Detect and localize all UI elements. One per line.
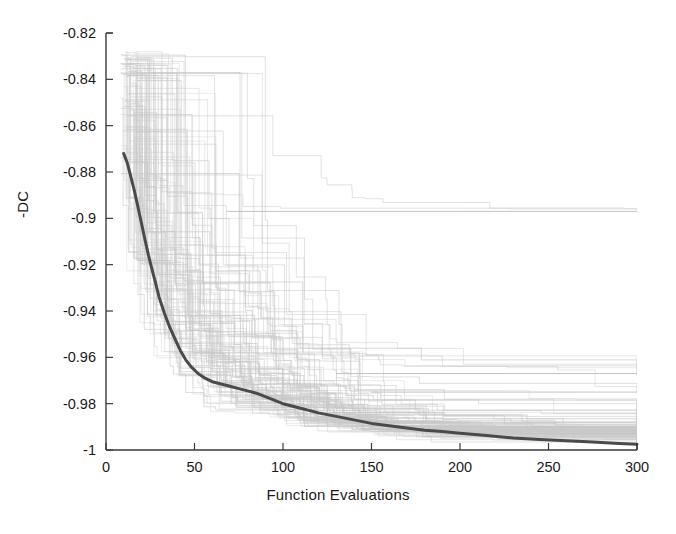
svg-text:-0.88: -0.88 [63,164,96,180]
svg-text:150: 150 [359,459,383,475]
svg-text:50: 50 [186,459,202,475]
x-axis-tick-labels: 050100150200250300 [102,459,649,475]
svg-text:-0.92: -0.92 [63,257,96,273]
y-axis-ticks [106,33,113,450]
run-trace [137,132,637,450]
x-axis-ticks [106,443,637,450]
svg-text:0: 0 [102,459,110,475]
run-trace [130,104,637,446]
run-trace [134,54,637,446]
run-trace [128,72,637,443]
x-axis-title: Function Evaluations [0,486,676,503]
run-trace [121,99,637,449]
svg-text:-0.96: -0.96 [63,349,96,365]
plot-canvas: 050100150200250300 -1-0.98-0.96-0.94-0.9… [0,0,676,534]
y-axis-title: -DC [14,191,31,218]
run-trace [128,116,637,212]
svg-text:100: 100 [271,459,295,475]
svg-text:200: 200 [448,459,472,475]
y-axis-tick-labels: -1-0.98-0.96-0.94-0.92-0.9-0.88-0.86-0.8… [63,25,96,458]
svg-text:250: 250 [536,459,560,475]
svg-text:-0.84: -0.84 [63,71,96,87]
svg-text:-0.94: -0.94 [63,303,96,319]
run-traces-group [120,52,637,450]
svg-text:-0.98: -0.98 [63,396,96,412]
svg-text:-0.86: -0.86 [63,118,96,134]
run-trace [131,72,637,442]
svg-text:300: 300 [625,459,649,475]
svg-text:-0.9: -0.9 [71,210,96,226]
svg-text:-1: -1 [83,442,96,458]
run-trace [131,57,637,446]
run-trace [137,81,637,368]
run-trace [124,87,637,431]
convergence-chart-figure: 050100150200250300 -1-0.98-0.96-0.94-0.9… [0,0,676,534]
svg-text:-0.82: -0.82 [63,25,96,41]
run-trace [129,141,637,375]
run-trace [135,120,637,209]
